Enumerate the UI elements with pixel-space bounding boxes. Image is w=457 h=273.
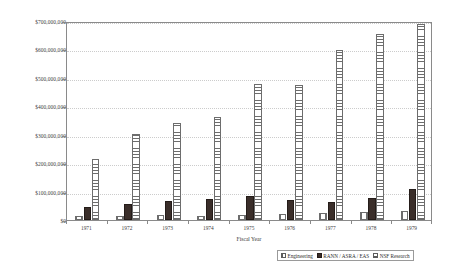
bar-group-1973 [157,23,181,220]
bar [206,199,214,220]
x-axis-tick-label: 1974 [190,225,226,231]
bar-group-1974 [197,23,221,220]
y-axis-tick-label: $0 [4,218,66,224]
bar [401,211,409,220]
bar-chart: $0$100,000,000$200,000,000$300,000,000$4… [0,0,457,273]
bar [376,34,384,220]
bar [173,123,181,221]
bar [157,215,165,220]
legend-label: RANN / ASRA / EAS [323,253,369,259]
y-axis-tick-label: $300,000,000 [4,133,66,139]
bar [84,207,92,220]
y-axis-tick-label: $600,000,000 [4,47,66,53]
y-axis-tick-label: $200,000,000 [4,161,66,167]
y-axis-tick-label: $400,000,000 [4,104,66,110]
x-axis-tick-mark [351,221,352,224]
x-axis-tick-label: 1979 [394,225,430,231]
bar [409,189,417,220]
bar [360,212,368,220]
bar [197,216,205,220]
x-axis-tick-label: 1973 [150,225,186,231]
bar [92,159,100,220]
x-axis-tick-mark [107,221,108,224]
bar [328,202,336,220]
bar [254,84,262,220]
x-axis-tick-label: 1976 [272,225,308,231]
bar-group-1976 [279,23,303,220]
legend-item: Engineering [281,253,313,259]
legend-item: RANN / ASRA / EAS [317,253,369,259]
bar [319,213,327,220]
x-axis-tick-mark [431,221,432,224]
x-axis-tick-label: 1977 [312,225,348,231]
bar-group-1978 [360,23,384,220]
bar [279,214,287,220]
bar [124,204,132,220]
legend-item: NSF Research [373,253,409,259]
bar [132,134,140,220]
bar [116,216,124,220]
legend-swatch [281,253,286,258]
x-axis-tick-label: 1972 [109,225,145,231]
y-axis-tick-label: $100,000,000 [4,190,66,196]
bar-group-1971 [75,23,99,220]
bar [295,85,303,220]
x-axis-tick-label: 1975 [231,225,267,231]
y-axis-tick-label: $500,000,000 [4,76,66,82]
x-axis-tick-mark [229,221,230,224]
x-axis-tick-mark [66,221,67,224]
bar [417,24,425,220]
bar-group-1972 [116,23,140,220]
x-axis-tick-mark [147,221,148,224]
bar-group-1979 [401,23,425,220]
x-axis-tick-label: 1971 [68,225,104,231]
plot-area [66,22,432,221]
legend-swatch [373,253,378,258]
x-axis-tick-label: 1978 [353,225,389,231]
x-axis-tick-mark [310,221,311,224]
bar [214,117,222,220]
bar [336,50,344,220]
x-axis-tick-mark [269,221,270,224]
bar [246,196,254,220]
x-axis: 197119721973197419751976197719781979 [66,221,432,237]
bar-group-1975 [238,23,262,220]
bar [75,216,83,220]
x-axis-tick-mark [391,221,392,224]
bar [238,215,246,220]
x-axis-tick-mark [188,221,189,224]
y-axis: $0$100,000,000$200,000,000$300,000,000$4… [0,22,66,221]
y-axis-tick-label: $700,000,000 [4,19,66,25]
bar [165,201,173,220]
chart-legend: EngineeringRANN / ASRA / EASNSF Research [277,250,414,261]
bar-group-1977 [319,23,343,220]
legend-label: NSF Research [380,253,410,259]
legend-label: Engineering [288,253,313,259]
bar [287,200,295,220]
legend-swatch [317,253,322,258]
x-axis-title: Fiscal Year [66,236,432,243]
bar [368,198,376,220]
